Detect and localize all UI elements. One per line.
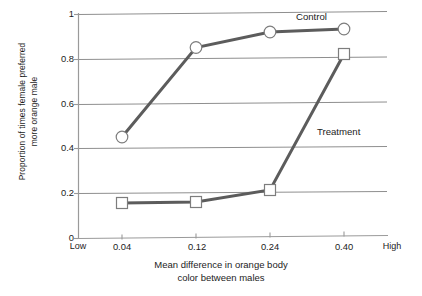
x-axis-title-line-1: Mean difference in orange body	[154, 259, 287, 270]
data-point-control-004	[116, 131, 128, 143]
chart-figure: Proportion of times female preferred mor…	[0, 0, 422, 296]
gridline-04	[78, 147, 387, 149]
series-markers-treatment	[117, 49, 350, 209]
data-point-treatment-040	[339, 49, 350, 60]
series-label-treatment: Treatment	[317, 126, 360, 137]
series-line-control	[122, 29, 344, 137]
data-point-control-012	[190, 42, 202, 54]
y-tick-marks	[74, 15, 78, 239]
gridline-02	[78, 192, 387, 194]
series-label-control: Control	[296, 11, 327, 22]
data-point-treatment-024	[265, 185, 276, 196]
gridline-06	[78, 102, 387, 105]
data-point-control-040	[338, 23, 350, 35]
data-point-treatment-004	[117, 198, 128, 209]
x-axis-title-line-2: color between males	[177, 272, 264, 283]
gridline-1	[78, 12, 387, 15]
series-line-treatment	[122, 54, 344, 203]
data-point-control-024	[264, 26, 276, 38]
x-axis-line	[78, 236, 388, 239]
plot-area	[0, 0, 422, 296]
data-point-treatment-012	[191, 197, 202, 208]
x-axis-title: Mean difference in orange body color bet…	[61, 259, 381, 284]
